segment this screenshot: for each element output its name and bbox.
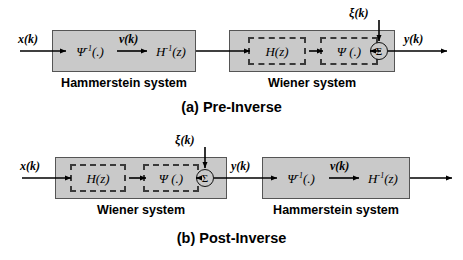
panel-a-x-signal-label: x(k) xyxy=(18,33,38,45)
panel-a-v-signal-label: v(k) xyxy=(119,33,138,45)
panel-a-psi-inverse-label: Ψ-1(.) xyxy=(66,45,114,58)
h-symbol: H xyxy=(156,44,165,59)
panel-a-wiener-caption: Wiener system xyxy=(229,76,395,90)
panel-a-y-signal-label: y(k) xyxy=(404,33,423,45)
psi-symbol: Ψ xyxy=(287,171,296,186)
panel-b-h-inverse-label: H-1(z) xyxy=(360,172,406,185)
panel-b-x-signal-label: x(k) xyxy=(20,160,40,172)
psi-inverse-exponent: -1 xyxy=(296,171,303,180)
panel-b-psi-inverse-label: Ψ-1(.) xyxy=(277,172,325,185)
h-inverse-argument: (z) xyxy=(384,171,398,186)
panel-a-title: (a) Pre-Inverse xyxy=(0,99,463,115)
panel-b-title: (b) Post-Inverse xyxy=(0,230,463,246)
panel-a-hz-label: H(z) xyxy=(248,45,306,58)
psi-inverse-argument: (.) xyxy=(92,44,104,59)
panel-b-psi-label: Ψ (.) xyxy=(143,172,199,185)
h-inverse-argument: (z) xyxy=(172,44,186,59)
block-diagram-figure: Ψ-1(.) v(k) H-1(z) Hammerstein system x(… xyxy=(0,0,463,260)
panel-b-wiener-caption: Wiener system xyxy=(55,203,227,217)
psi-inverse-exponent: -1 xyxy=(85,44,92,53)
panel-b-v-signal-label: v(k) xyxy=(330,160,349,172)
panel-a-noise-label: ξ(k) xyxy=(349,7,368,19)
panel-b-noise-label: ξ(k) xyxy=(175,134,194,146)
psi-inverse-argument: (.) xyxy=(303,171,315,186)
panel-b-summation-node: Σ xyxy=(196,169,214,187)
panel-a-summation-node: Σ xyxy=(370,42,388,60)
panel-a-h-inverse-label: H-1(z) xyxy=(148,45,194,58)
panel-b-hammerstein-caption: Hammerstein system xyxy=(262,203,410,217)
psi-symbol: Ψ xyxy=(76,44,85,59)
panel-b-hz-label: H(z) xyxy=(70,172,126,185)
h-symbol: H xyxy=(368,171,377,186)
panel-a-hammerstein-caption: Hammerstein system xyxy=(52,76,196,90)
panel-b-y-signal-label: y(k) xyxy=(231,160,250,172)
